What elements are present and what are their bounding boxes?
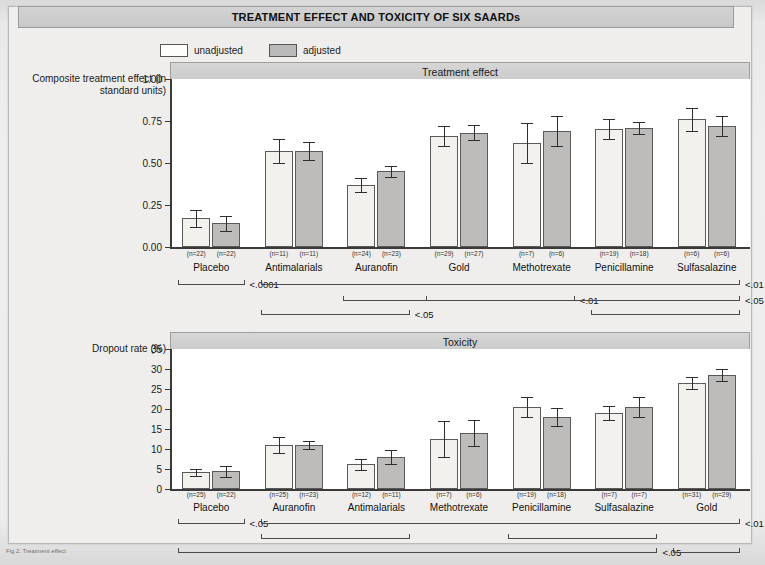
bar-adjusted-penicillamine xyxy=(625,128,653,247)
error-cap-top xyxy=(438,126,450,127)
error-cap-top xyxy=(603,119,615,120)
y-tick-mark xyxy=(165,389,170,390)
y-tick-label: 0.25 xyxy=(128,200,162,211)
error-cap-bottom xyxy=(273,163,285,164)
error-cap-top xyxy=(633,122,645,123)
error-cap-top xyxy=(468,125,480,126)
n-label-unadjusted-antimalarials: (n=12) xyxy=(352,491,371,498)
error-cap-top xyxy=(303,142,315,143)
error-bar-unadjusted-sulfasalazine xyxy=(692,108,693,132)
error-cap-bottom xyxy=(303,449,315,450)
bar-unadjusted-sulfasalazine xyxy=(595,413,623,489)
group-label-methotrexate: Methotrexate xyxy=(430,502,488,513)
error-bar-adjusted-placebo xyxy=(226,466,227,477)
n-label-unadjusted-sulfasalazine: (n=7) xyxy=(601,491,616,498)
group-label-methotrexate: Methotrexate xyxy=(512,262,570,273)
error-cap-bottom xyxy=(521,417,533,418)
group-label-gold: Gold xyxy=(448,262,469,273)
error-bar-unadjusted-penicillamine xyxy=(609,119,610,139)
error-cap-bottom xyxy=(273,453,285,454)
error-cap-bottom xyxy=(603,139,615,140)
bar-adjusted-gold xyxy=(708,375,736,489)
error-cap-bottom xyxy=(303,160,315,161)
error-bar-adjusted-sulfasalazine xyxy=(722,116,723,136)
y-tick-label: 35 xyxy=(128,344,162,355)
group-label-sulfasalazine: Sulfasalazine xyxy=(677,262,736,273)
panel-title-treatment-effect: Treatment effect xyxy=(422,66,498,78)
error-cap-bottom xyxy=(603,420,615,421)
error-bar-unadjusted-gold xyxy=(692,377,693,390)
error-bar-unadjusted-antimalarials xyxy=(361,459,362,470)
error-cap-bottom xyxy=(355,470,367,471)
significance-bracket xyxy=(591,310,740,315)
bar-unadjusted-antimalarials xyxy=(265,151,293,247)
bar-unadjusted-sulfasalazine xyxy=(678,119,706,247)
y-tick-mark xyxy=(165,163,170,164)
error-bar-adjusted-auranofin xyxy=(309,441,310,448)
significance-bracket xyxy=(261,519,740,524)
error-cap-bottom xyxy=(438,457,450,458)
significance-bracket xyxy=(261,280,740,285)
n-label-adjusted-sulfasalazine: (n=6) xyxy=(714,250,729,257)
error-bar-unadjusted-auranofin xyxy=(361,178,362,191)
n-label-adjusted-gold: (n=29) xyxy=(712,491,731,498)
y-tick-mark xyxy=(165,469,170,470)
y-tick-label: 1.00 xyxy=(128,74,162,85)
n-label-unadjusted-methotrexate: (n=7) xyxy=(519,250,534,257)
group-label-auranofin: Auranofin xyxy=(272,502,315,513)
y-tick-mark xyxy=(165,369,170,370)
y-tick-mark xyxy=(165,205,170,206)
y-tick-label: 0.50 xyxy=(128,158,162,169)
error-bar-unadjusted-gold xyxy=(444,126,445,146)
n-label-unadjusted-gold: (n=29) xyxy=(435,250,454,257)
error-cap-top xyxy=(603,406,615,407)
error-cap-bottom xyxy=(190,476,202,477)
error-cap-bottom xyxy=(190,227,202,228)
y-tick-label: 30 xyxy=(128,364,162,375)
bar-unadjusted-gold xyxy=(430,136,458,247)
error-bar-adjusted-gold xyxy=(722,369,723,381)
group-label-antimalarials: Antimalarials xyxy=(348,502,405,513)
significance-bracket xyxy=(178,280,245,285)
y-tick-mark xyxy=(165,409,170,410)
error-bar-unadjusted-methotrexate xyxy=(444,421,445,458)
legend-label-adjusted: adjusted xyxy=(303,45,341,56)
bar-adjusted-antimalarials xyxy=(295,151,323,247)
bar-unadjusted-penicillamine xyxy=(513,407,541,489)
n-label-adjusted-antimalarials: (n=11) xyxy=(300,250,319,257)
error-cap-bottom xyxy=(521,163,533,164)
bar-unadjusted-gold xyxy=(678,383,706,489)
y-tick-label: 5 xyxy=(128,464,162,475)
page-title: TREATMENT EFFECT AND TOXICITY OF SIX SAA… xyxy=(232,11,521,23)
bar-adjusted-auranofin xyxy=(295,445,323,489)
error-cap-top xyxy=(385,450,397,451)
y-tick-label: 0 xyxy=(128,484,162,495)
error-bar-adjusted-antimalarials xyxy=(391,450,392,464)
y-tick-label: 0.75 xyxy=(128,116,162,127)
n-label-adjusted-penicillamine: (n=18) xyxy=(547,491,566,498)
n-label-unadjusted-penicillamine: (n=19) xyxy=(517,491,536,498)
error-bar-adjusted-placebo xyxy=(226,216,227,231)
y-tick-mark xyxy=(165,489,170,490)
significance-bracket xyxy=(261,534,410,539)
error-bar-unadjusted-auranofin xyxy=(279,437,280,454)
error-bar-adjusted-gold xyxy=(474,125,475,140)
error-bar-unadjusted-methotrexate xyxy=(527,123,528,163)
error-cap-bottom xyxy=(551,146,563,147)
significance-bracket xyxy=(178,519,245,524)
panel-title-toxicity: Toxicity xyxy=(443,336,477,348)
error-cap-bottom xyxy=(385,464,397,465)
error-cap-top xyxy=(190,469,202,470)
y-tick-label: 25 xyxy=(128,384,162,395)
error-cap-top xyxy=(551,116,563,117)
error-bar-unadjusted-placebo xyxy=(196,210,197,227)
error-cap-bottom xyxy=(220,231,232,232)
n-label-adjusted-placebo: (n=22) xyxy=(217,250,236,257)
error-bar-unadjusted-antimalarials xyxy=(279,139,280,163)
y-tick-mark xyxy=(165,121,170,122)
group-label-auranofin: Auranofin xyxy=(355,262,398,273)
error-cap-top xyxy=(303,441,315,442)
y-tick-mark xyxy=(165,247,170,248)
legend-label-unadjusted: unadjusted xyxy=(194,45,243,56)
n-label-unadjusted-sulfasalazine: (n=6) xyxy=(684,250,699,257)
